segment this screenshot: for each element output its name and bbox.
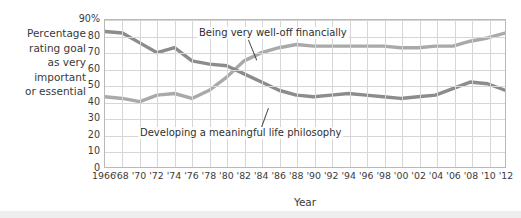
x-tick-label: '08 bbox=[464, 170, 479, 182]
x-axis-ticks: 1966'68'70'72'74'76'78'80'82'84'86'88'90… bbox=[104, 170, 506, 184]
gridline-vertical bbox=[402, 20, 403, 167]
gridline-horizontal bbox=[105, 70, 505, 71]
x-tick-label: '86 bbox=[272, 170, 287, 182]
plot-area bbox=[104, 19, 506, 168]
x-tick-label: '96 bbox=[359, 170, 374, 182]
y-tick-label: 10 bbox=[70, 146, 100, 156]
gridline-vertical bbox=[420, 20, 421, 167]
x-tick-label: '74 bbox=[167, 170, 182, 182]
y-tick-label: 50 bbox=[70, 80, 100, 90]
x-tick-label: '82 bbox=[237, 170, 252, 182]
x-tick-label: '00 bbox=[394, 170, 409, 182]
x-tick-label: '02 bbox=[411, 170, 426, 182]
gridline-vertical bbox=[490, 20, 491, 167]
gridline-vertical bbox=[350, 20, 351, 167]
x-tick-label: '88 bbox=[289, 170, 304, 182]
gridline-vertical bbox=[210, 20, 211, 167]
x-tick-label: '06 bbox=[446, 170, 461, 182]
gridline-vertical bbox=[175, 20, 176, 167]
annotation-welloff: Being very well-off financially bbox=[197, 27, 349, 39]
gridline-vertical bbox=[140, 20, 141, 167]
x-tick-label: '68 bbox=[114, 170, 129, 182]
gridline-vertical bbox=[472, 20, 473, 167]
gridline-vertical bbox=[315, 20, 316, 167]
gridline-vertical bbox=[245, 20, 246, 167]
series-line bbox=[105, 31, 505, 98]
gridline-horizontal bbox=[105, 86, 505, 87]
annotation-philosophy: Developing a meaningful life philosophy bbox=[138, 127, 343, 139]
gridline-horizontal bbox=[105, 53, 505, 54]
gridline-vertical bbox=[280, 20, 281, 167]
x-tick-label: '76 bbox=[184, 170, 199, 182]
chart-figure: Percentage rating goal as very important… bbox=[0, 0, 521, 218]
y-tick-label: 70 bbox=[70, 47, 100, 57]
x-tick-label: '98 bbox=[376, 170, 391, 182]
x-tick-label: '92 bbox=[324, 170, 339, 182]
x-tick-label: '12 bbox=[499, 170, 514, 182]
y-tick-label: 30 bbox=[70, 113, 100, 123]
series-lines bbox=[105, 20, 505, 167]
gridline-vertical bbox=[297, 20, 298, 167]
gridline-horizontal bbox=[105, 152, 505, 153]
gridline-horizontal bbox=[105, 103, 505, 104]
x-tick-label: '80 bbox=[219, 170, 234, 182]
y-tick-label: 20 bbox=[70, 130, 100, 140]
gridline-vertical bbox=[385, 20, 386, 167]
gridline-vertical bbox=[262, 20, 263, 167]
gridline-horizontal bbox=[105, 20, 505, 21]
gridline-vertical bbox=[367, 20, 368, 167]
gridline-vertical bbox=[437, 20, 438, 167]
y-tick-label: 80 bbox=[70, 31, 100, 41]
x-tick-label: '84 bbox=[254, 170, 269, 182]
gridline-horizontal bbox=[105, 119, 505, 120]
y-tick-label: 60 bbox=[70, 64, 100, 74]
x-tick-label: '04 bbox=[429, 170, 444, 182]
y-tick-label: 40 bbox=[70, 97, 100, 107]
gridline-vertical bbox=[192, 20, 193, 167]
x-tick-label: '90 bbox=[306, 170, 321, 182]
x-tick-label: '94 bbox=[341, 170, 356, 182]
x-tick-label: '70 bbox=[132, 170, 147, 182]
x-tick-label: '72 bbox=[149, 170, 164, 182]
y-tick-label: 90% bbox=[70, 14, 100, 24]
gridline-vertical bbox=[227, 20, 228, 167]
gridline-vertical bbox=[157, 20, 158, 167]
x-tick-label: '10 bbox=[481, 170, 496, 182]
gridline-vertical bbox=[122, 20, 123, 167]
gridline-vertical bbox=[455, 20, 456, 167]
x-axis-caption: Year bbox=[104, 196, 506, 208]
y-axis-ticks: 0102030405060708090% bbox=[66, 19, 100, 168]
gridline-vertical bbox=[332, 20, 333, 167]
footer-strip bbox=[0, 211, 521, 218]
x-tick-label: 1966 bbox=[92, 170, 116, 182]
x-tick-label: '78 bbox=[202, 170, 217, 182]
